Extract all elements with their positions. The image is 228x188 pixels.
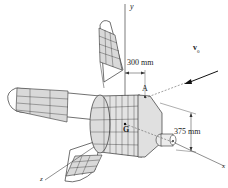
- y-axis-label: y: [130, 3, 134, 11]
- satellite-diagram: [0, 0, 228, 188]
- left-solar-panel: [8, 88, 100, 122]
- nozzle: [156, 134, 176, 146]
- velocity-arrowhead: [184, 79, 192, 84]
- dimension-375-label: 375 mm: [174, 128, 200, 136]
- velocity-label: v0: [193, 44, 200, 54]
- velocity-line: [145, 83, 185, 98]
- point-A-marker: [144, 96, 146, 98]
- point-A-label: A: [142, 85, 148, 93]
- point-G-label: G: [123, 126, 129, 134]
- dimension-300-label: 300 mm: [127, 59, 153, 67]
- upper-solar-panel: [99, 21, 123, 88]
- x-axis-line: [175, 143, 224, 166]
- satellite-body: [90, 95, 142, 157]
- x-axis-label: x: [222, 163, 225, 170]
- velocity-arrow: [190, 71, 218, 82]
- z-axis-label: z: [40, 176, 43, 183]
- nose-cone: [138, 95, 162, 157]
